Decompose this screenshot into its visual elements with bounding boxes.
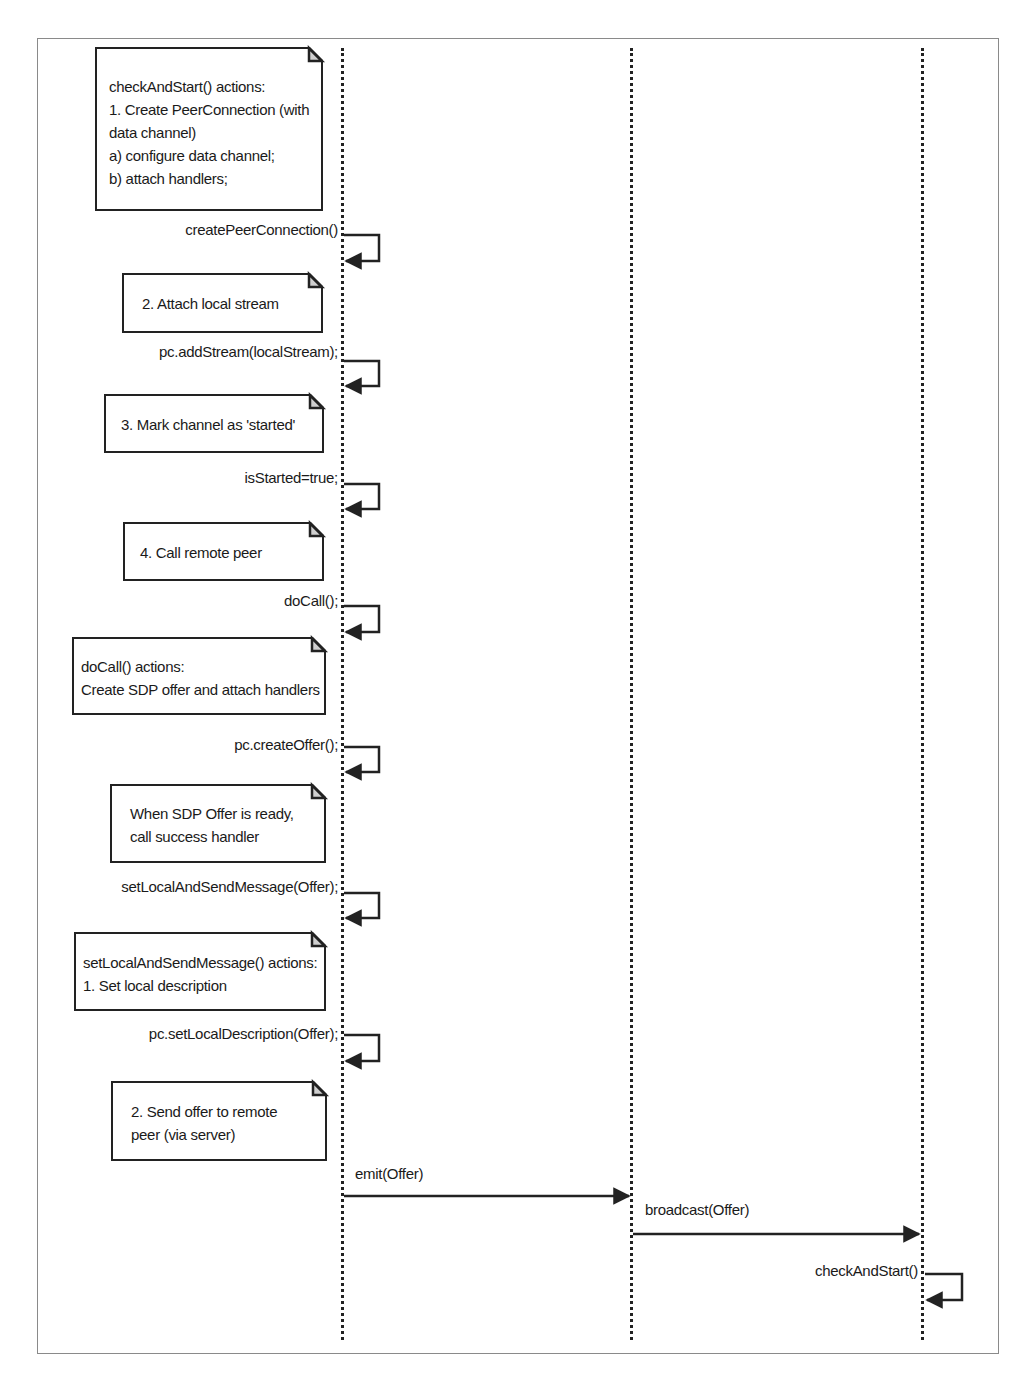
self-arrow-icon (344, 1035, 379, 1061)
self-arrow-icon (344, 235, 379, 261)
figure-caption-partial (20, 1370, 360, 1380)
self-arrow-icon (344, 484, 379, 509)
self-arrow-icon (344, 893, 379, 918)
self-arrow-icon (344, 606, 379, 632)
self-arrow-icon (344, 361, 379, 386)
message-arrows (0, 0, 1030, 1380)
self-arrow-icon (344, 747, 379, 772)
self-arrow-icon (925, 1274, 962, 1300)
